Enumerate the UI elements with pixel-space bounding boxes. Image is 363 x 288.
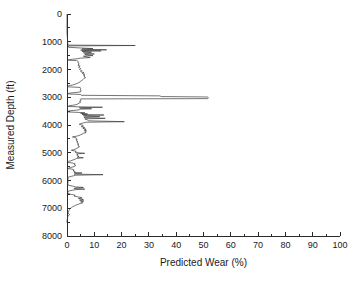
y-tick-label: 0 bbox=[57, 9, 62, 19]
x-tick-label: 50 bbox=[198, 240, 208, 250]
y-tick-label: 4000 bbox=[42, 120, 62, 130]
chart-figure: 0102030405060708090100 01000200030004000… bbox=[0, 0, 363, 288]
y-tick-label: 7000 bbox=[42, 203, 62, 213]
x-tick-label: 80 bbox=[280, 240, 290, 250]
x-tick-label: 30 bbox=[144, 240, 154, 250]
y-tick-label: 2000 bbox=[42, 65, 62, 75]
x-tick-label: 100 bbox=[332, 240, 347, 250]
x-tick-label: 90 bbox=[308, 240, 318, 250]
x-tick-label: 70 bbox=[253, 240, 263, 250]
x-tick-label: 10 bbox=[89, 240, 99, 250]
predicted-wear-depth-chart: 0102030405060708090100 01000200030004000… bbox=[0, 0, 363, 288]
y-tick-label: 8000 bbox=[42, 231, 62, 241]
x-tick-label: 20 bbox=[117, 240, 127, 250]
y-axis-title: Measured Depth (ft) bbox=[5, 81, 16, 170]
x-axis-title: Predicted Wear (%) bbox=[160, 257, 247, 268]
y-tick-label: 1000 bbox=[42, 37, 62, 47]
y-tick-label: 6000 bbox=[42, 176, 62, 186]
y-axis-tick-labels: 010002000300040005000600070008000 bbox=[42, 9, 62, 241]
x-tick-label: 60 bbox=[226, 240, 236, 250]
x-tick-label: 0 bbox=[64, 240, 69, 250]
y-tick-label: 3000 bbox=[42, 92, 62, 102]
x-tick-label: 40 bbox=[171, 240, 181, 250]
y-tick-label: 5000 bbox=[42, 148, 62, 158]
